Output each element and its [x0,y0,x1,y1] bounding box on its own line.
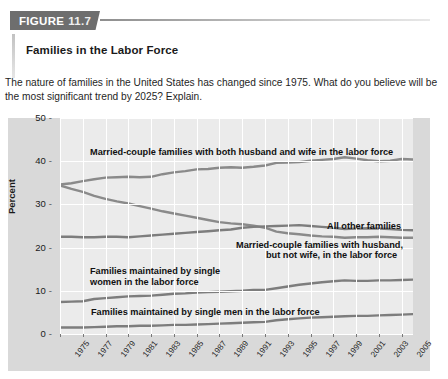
ann-single-men: Families maintained by single men in the… [91,307,320,318]
grid-line-horizontal [60,161,413,162]
x-tick-label: 1991 [255,339,273,359]
x-tick-label: 2003 [392,339,410,359]
x-tick-mark [60,334,61,337]
x-tick-mark [197,334,198,337]
grid-line-horizontal [60,334,413,335]
grid-line-horizontal [60,291,413,292]
x-tick-mark [83,334,84,337]
x-tick-label: 1979 [119,339,137,359]
x-tick-mark [128,334,129,337]
figure-tag-number: 11.7 [68,15,91,27]
ann-all-other: All other families [327,221,401,232]
x-tick-label: 1983 [164,339,182,359]
x-tick-label: 1987 [210,339,228,359]
x-tick-mark [219,334,220,337]
grid-line-horizontal [60,204,413,205]
x-tick-label: 1981 [141,339,159,359]
x-tick-mark [265,334,266,337]
ann-married-husband-line2: but not wife, in the labor force [266,250,397,261]
x-tick-label: 2005 [415,339,433,359]
x-tick-mark [242,334,243,337]
x-tick-label: 1985 [187,339,205,359]
x-tick-label: 2001 [369,339,387,359]
y-tick-label: 50- [8,112,52,123]
x-tick-mark [333,334,334,337]
figure-title: Families in the Labor Force [26,44,178,56]
x-tick-label: 1977 [96,339,114,359]
figure-description: The nature of families in the United Sta… [5,76,443,103]
x-tick-mark [174,334,175,337]
header-rule [100,19,430,21]
y-tick-label: 10- [8,285,52,296]
grid-line-vertical [60,118,61,334]
x-tick-label: 1999 [346,339,364,359]
x-tick-mark [311,334,312,337]
ann-single-women-line1: Families maintained by single [90,266,220,277]
x-tick-label: 1997 [324,339,342,359]
x-tick-label: 1995 [301,339,319,359]
chart-panel: Percent 0-10-20-30-40-50- 19751977197919… [8,118,430,371]
y-tick-label: 0- [8,328,52,339]
figure-number-tag: FIGURE 11.7 [10,11,100,30]
x-tick-mark [379,334,380,337]
y-tick-label: 40- [8,155,52,166]
grid-line-horizontal [60,118,413,119]
ann-married-both: Married-couple families with both husban… [90,147,393,158]
x-tick-mark [402,334,403,337]
x-tick-mark [288,334,289,337]
grid-line-vertical [83,118,84,334]
y-tick-label: 20- [8,242,52,253]
x-tick-mark [356,334,357,337]
ann-single-women-line2: women in the labor force [90,277,199,288]
x-tick-label: 1989 [232,339,250,359]
x-tick-label: 1993 [278,339,296,359]
x-tick-mark [151,334,152,337]
figure-header: FIGURE 11.7 Families in the Labor Force … [0,0,448,96]
x-tick-label: 1975 [73,339,91,359]
y-tick-label: 30- [8,198,52,209]
title-accent-bar [12,34,15,78]
grid-line-vertical [402,118,403,334]
x-tick-mark [106,334,107,337]
figure-tag-word: FIGURE [19,15,64,27]
